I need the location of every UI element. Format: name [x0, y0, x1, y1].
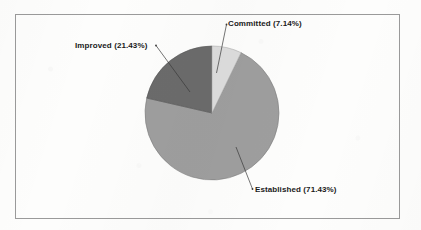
pie-chart-screenshot: Committed (7.14%) Improved (21.43%) Esta… [0, 0, 421, 230]
pie-label-committed: Committed (7.14%) [228, 19, 302, 28]
pie-label-established: Established (71.43%) [255, 185, 337, 194]
pie-label-improved: Improved (21.43%) [75, 41, 147, 50]
pie-chart-graphic [0, 0, 421, 230]
